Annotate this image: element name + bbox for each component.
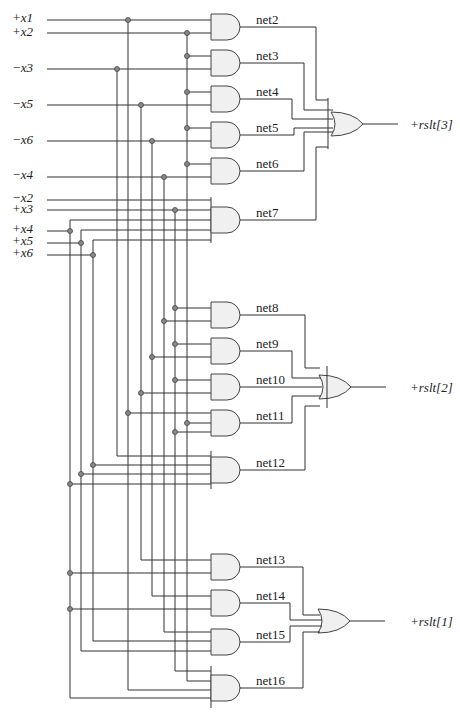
input-nx4: −x4: [12, 167, 34, 182]
net4-label: net4: [256, 84, 279, 99]
input-x1: +x1: [12, 10, 33, 25]
input-nx3: −x3: [12, 60, 34, 75]
net16-label: net16: [256, 673, 285, 688]
input-px6: +x6: [12, 245, 34, 260]
output-rslt1: +rslt[1]: [410, 614, 453, 629]
net9-label: net9: [256, 336, 278, 351]
output-labels: +rslt[3] +rslt[2] +rslt[1]: [410, 117, 453, 629]
input-nx6: −x6: [12, 132, 34, 147]
input-x2: +x2: [12, 24, 34, 39]
output-rslt3: +rslt[3]: [410, 117, 453, 132]
net11-label: net11: [256, 408, 284, 423]
net7-label: net7: [256, 205, 279, 220]
net8-label: net8: [256, 300, 278, 315]
net2-label: net2: [256, 12, 278, 27]
net-labels: net2 net3 net4 net5 net6 net7 net8 net9 …: [256, 12, 285, 688]
input-labels: +x1 +x2 −x3 −x5 −x6 −x4 −x2 +x3 +x4 +x5 …: [12, 10, 34, 260]
output-rslt2: +rslt[2]: [410, 380, 453, 395]
input-nx5: −x5: [12, 96, 34, 111]
net6-label: net6: [256, 156, 279, 171]
net3-label: net3: [256, 48, 278, 63]
and-gates: [211, 14, 240, 701]
net15-label: net15: [256, 627, 285, 642]
net5-label: net5: [256, 120, 278, 135]
input-px3: +x3: [12, 201, 34, 216]
net12-label: net12: [256, 455, 285, 470]
net13-label: net13: [256, 552, 285, 567]
net14-label: net14: [256, 588, 285, 603]
net10-label: net10: [256, 372, 285, 387]
or-gates: [318, 112, 363, 633]
logic-circuit: +x1 +x2 −x3 −x5 −x6 −x4 −x2 +x3 +x4 +x5 …: [0, 0, 460, 725]
